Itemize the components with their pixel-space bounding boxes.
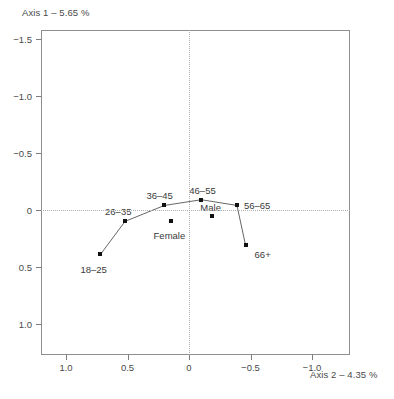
x-axis-tick-label: −1.0 [303, 362, 322, 373]
x-axis-tick-label: 0.5 [121, 362, 134, 373]
x-axis-tick-label: 0 [186, 362, 191, 373]
y-axis-tick [36, 324, 41, 325]
y-axis-tick [36, 153, 41, 154]
x-axis-tick-label: 1.0 [59, 362, 72, 373]
data-point-marker [98, 252, 102, 256]
y-axis-tick [36, 267, 41, 268]
y-axis-tick [36, 39, 41, 40]
data-point-label: 66+ [255, 249, 271, 260]
y-axis-tick-label: −1.0 [0, 91, 32, 102]
x-axis-tick [66, 355, 67, 360]
data-point-marker [244, 243, 248, 247]
zero-reference-line-vertical [189, 30, 190, 355]
data-point-marker [235, 203, 239, 207]
zero-reference-line-horizontal [41, 210, 350, 211]
data-point-label: Male [200, 202, 221, 213]
data-point-marker [169, 219, 173, 223]
data-point-label: 36–45 [146, 190, 172, 201]
data-point-label: 46–55 [189, 185, 215, 196]
x-axis-tick [189, 355, 190, 360]
data-point-label: 18–25 [80, 264, 106, 275]
data-point-label: Female [154, 230, 186, 241]
y-axis-tick-label: 1.0 [0, 319, 32, 330]
y-axis-tick [36, 96, 41, 97]
data-point-label: 26–35 [105, 206, 131, 217]
x-axis-tick [128, 355, 129, 360]
y-axis-tick-label: 0.5 [0, 262, 32, 273]
x-axis-tick [251, 355, 252, 360]
data-point-marker [210, 214, 214, 218]
correspondence-analysis-plot: Axis 1 – 5.65 % Axis 2 – 4.35 % −1.5−1.0… [0, 0, 394, 399]
y-axis-tick-label: −1.5 [0, 34, 32, 45]
data-point-marker [123, 219, 127, 223]
x-axis-tick [312, 355, 313, 360]
y-axis-title: Axis 1 – 5.65 % [22, 7, 90, 18]
y-axis-tick-label: 0 [0, 205, 32, 216]
data-point-marker [162, 203, 166, 207]
x-axis-tick-label: −0.5 [241, 362, 260, 373]
y-axis-tick-label: −0.5 [0, 148, 32, 159]
